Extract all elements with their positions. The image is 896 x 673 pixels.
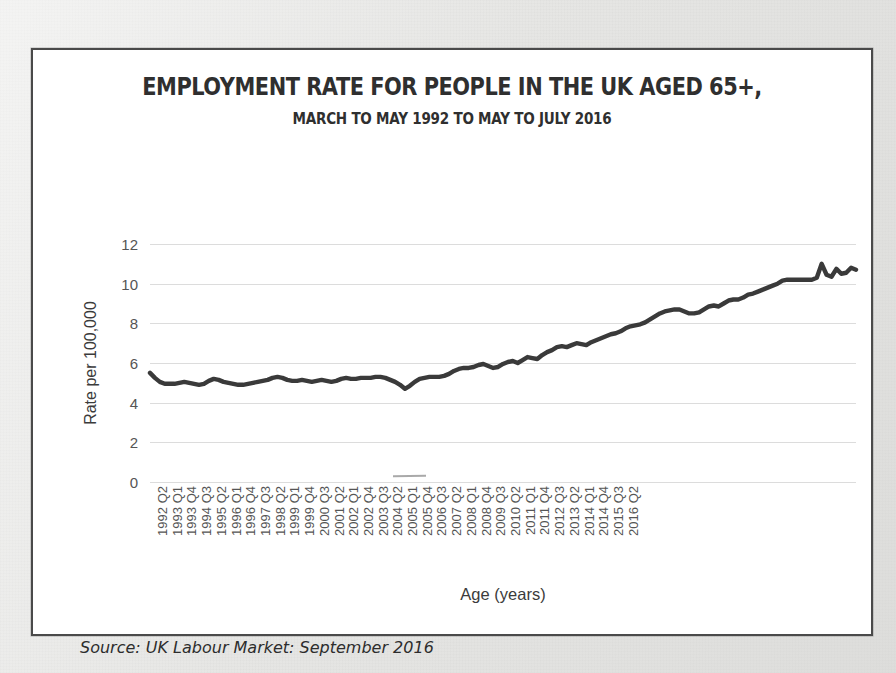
x-axis-tick-label: 2016 Q2 xyxy=(626,486,641,536)
y-axis-tick-label: 4 xyxy=(130,394,138,411)
x-axis-tick-label: 2014 Q4 xyxy=(596,486,611,536)
y-axis-tick-label: 0 xyxy=(130,474,138,491)
x-axis-tick-label: 2008 Q4 xyxy=(479,486,494,536)
x-axis-tick-label: 1994 Q3 xyxy=(199,486,214,536)
x-axis-title: Age (years) xyxy=(150,585,856,604)
x-axis-tick-label: 2007 Q2 xyxy=(449,486,464,536)
x-axis-tick-label: 2002 Q4 xyxy=(361,486,376,536)
x-axis-tick-label: 2002 Q1 xyxy=(346,486,361,536)
chart-figure-frame: EMPLOYMENT RATE FOR PEOPLE IN THE UK AGE… xyxy=(31,48,873,636)
x-axis-tick-label: 2008 Q1 xyxy=(464,486,479,536)
x-axis-tick-label: 2011 Q1 xyxy=(523,486,538,535)
x-axis-tick-label: 1993 Q1 xyxy=(170,486,185,536)
x-axis-tick-labels: 1992 Q21993 Q11993 Q41994 Q31995 Q21996 … xyxy=(150,486,856,568)
employment-rate-line xyxy=(150,264,856,389)
y-axis-tick-label: 6 xyxy=(130,355,138,372)
x-axis-tick-label: 1995 Q2 xyxy=(214,486,229,536)
y-axis-tick-label: 12 xyxy=(121,236,138,253)
x-axis-tick-label: 1998 Q2 xyxy=(273,486,288,536)
x-axis-tick-label: 2001 Q2 xyxy=(332,486,347,536)
x-axis-tick-label: 2004 Q2 xyxy=(390,486,405,536)
x-axis-tick-label: 1996 Q4 xyxy=(243,486,258,536)
x-axis-tick-label: 2013 Q2 xyxy=(567,486,582,536)
x-axis-tick-label: 1999 Q4 xyxy=(302,486,317,536)
x-axis-tick-label: 2012 Q3 xyxy=(552,486,567,536)
chart-title: EMPLOYMENT RATE FOR PEOPLE IN THE UK AGE… xyxy=(108,72,795,100)
x-axis-tick-label: 2003 Q3 xyxy=(376,486,391,536)
x-axis-tick-label: 2011 Q4 xyxy=(537,486,552,535)
x-axis-tick-label: 2010 Q2 xyxy=(508,486,523,536)
chart-subtitle: MARCH TO MAY 1992 TO MAY TO JULY 2016 xyxy=(108,109,795,128)
x-axis-tick-label: 2005 Q4 xyxy=(420,486,435,536)
y-axis-tick-label: 2 xyxy=(130,434,138,451)
source-note: Source: UK Labour Market: September 2016 xyxy=(80,638,434,657)
y-axis-tick-label: 8 xyxy=(130,315,138,332)
plot-area: 024681012 xyxy=(150,244,856,482)
y-axis-title: Rate per 100,000 xyxy=(82,301,100,425)
x-axis-tick-label: 2005 Q1 xyxy=(405,486,420,536)
x-axis-tick-label: 1997 Q3 xyxy=(258,486,273,536)
chart-heading-block: EMPLOYMENT RATE FOR PEOPLE IN THE UK AGE… xyxy=(33,72,871,128)
x-axis-tick-label: 2000 Q3 xyxy=(317,486,332,536)
x-axis-tick-label: 1993 Q4 xyxy=(184,486,199,536)
x-axis-tick-label: 1999 Q1 xyxy=(287,486,302,536)
x-axis-tick-label: 2014 Q1 xyxy=(582,486,597,536)
x-axis-tick-label: 2015 Q3 xyxy=(611,486,626,536)
x-axis-tick-label: 1992 Q2 xyxy=(155,486,170,536)
y-axis-tick-label: 10 xyxy=(121,275,138,292)
x-axis-tick-label: 1996 Q1 xyxy=(229,486,244,536)
x-axis-tick-label: 2009 Q3 xyxy=(493,486,508,536)
x-axis-tick-label: 2006 Q3 xyxy=(434,486,449,536)
